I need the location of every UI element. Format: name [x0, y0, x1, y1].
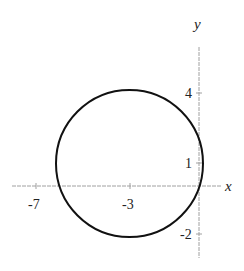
- x-tick-label-neg7: -7: [28, 197, 40, 212]
- x-tick-label-neg3: -3: [122, 197, 134, 212]
- y-axis-label: y: [192, 16, 201, 32]
- y-tick-label-4: 4: [185, 86, 192, 101]
- y-tick-label-1: 1: [185, 156, 192, 171]
- y-tick-label-neg2: -2: [180, 227, 192, 242]
- coordinate-plane: y x -7 -3 4 1 -2: [0, 0, 244, 271]
- circle-curve: [56, 90, 203, 237]
- x-axis-label: x: [224, 178, 232, 194]
